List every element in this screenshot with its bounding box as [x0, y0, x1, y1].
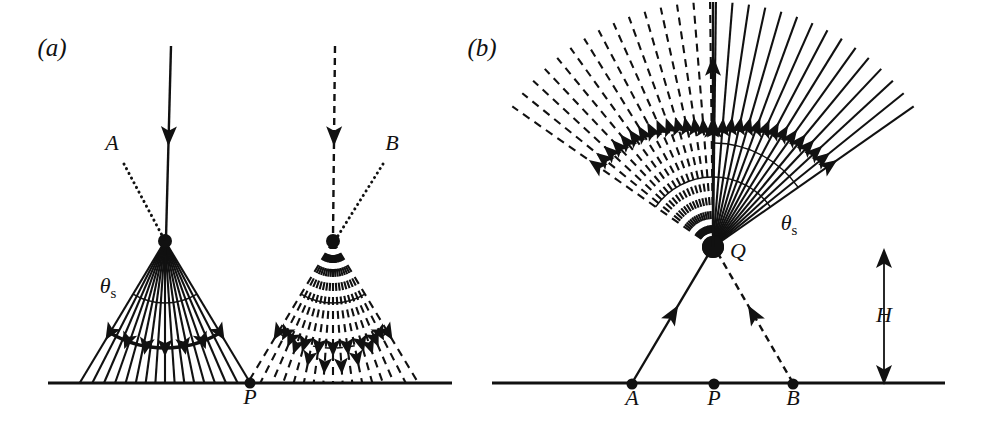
point-dot-A	[627, 379, 638, 390]
point-dot-P	[709, 379, 720, 390]
left-fan-a	[80, 241, 251, 383]
ray-b-to-q-arrowhead	[748, 305, 765, 326]
leader-a	[124, 164, 164, 239]
figure-root: (a)PABθs(b)APBQθsH	[0, 0, 1000, 434]
fan-ray	[165, 241, 238, 383]
generated-geometry	[48, 2, 945, 390]
left-fan-b	[512, 2, 713, 247]
fan-ray	[557, 58, 713, 247]
right-fan-b	[713, 2, 914, 247]
right-fan-a	[248, 241, 419, 383]
incoming-dashed-ray-arrowhead	[326, 126, 342, 146]
fan-ray	[165, 241, 204, 383]
ray-a-to-q-arrowhead	[661, 305, 678, 326]
fan-ray	[126, 241, 165, 383]
diagram-canvas	[0, 0, 1000, 434]
point-dot-B	[788, 379, 799, 390]
fan-ray	[713, 81, 893, 247]
fan-ray	[713, 30, 827, 247]
point-dot-P	[245, 378, 256, 389]
fan-ray	[545, 69, 713, 247]
fan-ray	[92, 241, 165, 383]
fan-ray	[599, 30, 713, 247]
leader-b	[336, 164, 383, 239]
fan-ray	[533, 81, 713, 247]
